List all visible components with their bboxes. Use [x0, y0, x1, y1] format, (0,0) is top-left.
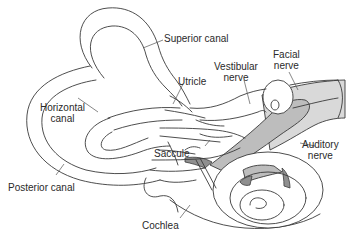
label-facial-nerve-line2: nerve: [273, 60, 300, 71]
label-auditory-nerve: Auditory nerve: [302, 139, 339, 161]
label-horizontal-canal-line2: canal: [40, 113, 85, 124]
label-facial-nerve: Facial nerve: [273, 49, 300, 71]
label-cochlea: Cochlea: [142, 220, 179, 231]
label-superior-canal: Superior canal: [164, 33, 228, 44]
label-horizontal-canal-line1: Horizontal: [40, 102, 85, 113]
label-utricle: Utricle: [178, 76, 206, 87]
label-posterior-canal: Posterior canal: [8, 182, 75, 193]
label-saccule: Saccule: [154, 148, 190, 159]
posterior-canal-structure: [27, 66, 160, 185]
cochlea-structure: [144, 152, 323, 228]
superior-canal-structure: [80, 8, 190, 106]
label-vestibular-nerve-line2: nerve: [214, 72, 258, 83]
vestibular-nerve-structure: [190, 89, 266, 121]
label-facial-nerve-line1: Facial: [273, 49, 300, 60]
label-auditory-nerve-line1: Auditory: [302, 139, 339, 150]
label-horizontal-canal: Horizontal canal: [40, 102, 85, 124]
label-vestibular-nerve: Vestibular nerve: [214, 61, 258, 83]
label-auditory-nerve-line2: nerve: [302, 150, 339, 161]
label-vestibular-nerve-line1: Vestibular: [214, 61, 258, 72]
